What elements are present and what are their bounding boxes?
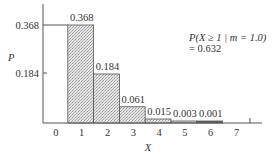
x-axis-label: X xyxy=(144,142,152,153)
bar-value-label: 0.003 xyxy=(173,108,197,119)
bar xyxy=(68,25,94,123)
bar-value-label: 0.061 xyxy=(121,94,145,105)
annotation-value: = 0.632 xyxy=(189,43,221,54)
poisson-bar-chart: 0.368 0.184 P X 01234567 0.3680.1840.061… xyxy=(0,0,272,157)
x-tick-label: 5 xyxy=(182,127,187,138)
bar-value-label: 0.001 xyxy=(199,108,223,119)
x-tick-label: 6 xyxy=(208,127,213,138)
x-tick-label: 3 xyxy=(131,127,136,138)
bar-value-label: 0.368 xyxy=(70,12,94,23)
ytick-label-0368: 0.368 xyxy=(15,20,39,31)
bar xyxy=(94,74,120,123)
bar xyxy=(119,107,145,123)
x-tick-label: 2 xyxy=(105,127,110,138)
bar xyxy=(145,119,171,123)
ytick-label-0184: 0.184 xyxy=(15,68,39,79)
x-tick-labels: 01234567 xyxy=(53,127,239,138)
x-tick-label: 1 xyxy=(79,127,84,138)
x-tick-label: 0 xyxy=(53,127,58,138)
bar-value-label: 0.015 xyxy=(147,106,171,117)
x-tick-label: 7 xyxy=(234,127,239,138)
x-tick-label: 4 xyxy=(156,127,162,138)
bar-value-label: 0.184 xyxy=(96,61,120,72)
y-axis-label: P xyxy=(7,52,15,63)
